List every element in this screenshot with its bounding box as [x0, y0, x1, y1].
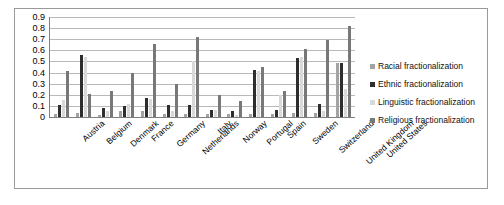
bar [344, 89, 347, 117]
bar [119, 111, 122, 117]
bar [141, 111, 144, 117]
bar [54, 114, 57, 117]
bar [58, 105, 61, 117]
bar [131, 73, 134, 117]
bar [188, 105, 191, 117]
x-axis-tick-label: Sweden [311, 119, 340, 146]
bar [214, 110, 217, 117]
legend-label: Racial fractionalization [378, 61, 463, 71]
bar [336, 63, 339, 117]
y-axis: 0.90.80.70.60.50.40.30.20.10 [25, 17, 47, 117]
chart-legend: Racial fractionalizationEthnic fractiona… [370, 61, 495, 133]
legend-item[interactable]: Linguistic fractionalization [370, 97, 495, 107]
bar [184, 114, 187, 117]
bar-group [159, 17, 181, 117]
bar [192, 61, 195, 117]
bar [253, 70, 256, 117]
bar [239, 101, 242, 117]
legend-item[interactable]: Ethnic fractionalization [370, 79, 495, 89]
bar [76, 113, 79, 117]
bar [261, 67, 264, 117]
x-axis-tick-label: Germany [175, 119, 207, 149]
bar [127, 104, 130, 117]
bar [145, 98, 148, 117]
y-axis-tick: 0.4 [32, 68, 45, 77]
legend-swatch-icon [370, 100, 375, 105]
legend-item[interactable]: Racial fractionalization [370, 61, 495, 71]
bar [66, 71, 69, 117]
bar-group [51, 17, 73, 117]
bar [62, 100, 65, 117]
bar [210, 110, 213, 117]
bar-group [181, 17, 203, 117]
bar [106, 111, 109, 117]
bar-group [94, 17, 116, 117]
bar [98, 115, 101, 117]
bar-group [224, 17, 246, 117]
bar [300, 57, 303, 117]
chart-container: 0.90.80.70.60.50.40.30.20.10 AustriaBelg… [14, 8, 488, 189]
bar [231, 111, 234, 117]
x-axis-tick-label: Austria [81, 119, 107, 143]
bar [279, 95, 282, 117]
bar [196, 37, 199, 117]
bar [283, 91, 286, 117]
bar-group [73, 17, 95, 117]
y-axis-tick: 0.5 [32, 57, 45, 66]
y-axis-tick: 0.7 [32, 35, 45, 44]
bar-group [332, 17, 354, 117]
bar [318, 104, 321, 117]
bar-group [116, 17, 138, 117]
bar [102, 108, 105, 117]
bar [340, 63, 343, 117]
legend-swatch-icon [370, 82, 375, 87]
bar [326, 40, 329, 117]
bar [322, 111, 325, 117]
bar-group [267, 17, 289, 117]
bar-group [138, 17, 160, 117]
bar [175, 84, 178, 117]
y-axis-tick: 0.6 [32, 46, 45, 55]
bar [235, 115, 238, 117]
bar [163, 114, 166, 117]
legend-item[interactable]: Religious fractionalization [370, 115, 495, 125]
bar [257, 71, 260, 117]
bar [80, 55, 83, 117]
y-axis-tick: 0.9 [32, 13, 45, 22]
legend-swatch-icon [370, 118, 375, 123]
bar [206, 114, 209, 117]
bar [123, 106, 126, 117]
y-axis-tick: 0.8 [32, 24, 45, 33]
bar [84, 57, 87, 117]
bar [227, 114, 230, 117]
plot-wrapper: 0.90.80.70.60.50.40.30.20.10 [25, 17, 355, 129]
bar [296, 58, 299, 117]
bar-group [289, 17, 311, 117]
bar-group [202, 17, 224, 117]
bar [348, 26, 351, 117]
bar [218, 95, 221, 117]
legend-label: Ethnic fractionalization [378, 79, 463, 89]
bar-group [246, 17, 268, 117]
x-axis-labels: AustriaBelgiumDenmarkFranceGermanyNether… [49, 119, 369, 179]
bar [167, 105, 170, 117]
y-axis-tick: 0.3 [32, 79, 45, 88]
bar-groups [50, 17, 355, 117]
bar [88, 94, 91, 117]
bar [249, 114, 252, 117]
bar [171, 111, 174, 117]
bar-group [311, 17, 333, 117]
plot-area [49, 17, 355, 118]
bar [149, 99, 152, 117]
bar [153, 44, 156, 117]
legend-label: Religious fractionalization [378, 115, 474, 125]
bar [110, 91, 113, 117]
legend-swatch-icon [370, 64, 375, 69]
y-axis-tick: 0.1 [32, 101, 45, 110]
bar [271, 114, 274, 117]
bar [314, 113, 317, 117]
y-axis-tick: 0.2 [32, 90, 45, 99]
y-axis-tick: 0 [40, 113, 45, 122]
bar [304, 49, 307, 117]
legend-label: Linguistic fractionalization [378, 97, 475, 107]
